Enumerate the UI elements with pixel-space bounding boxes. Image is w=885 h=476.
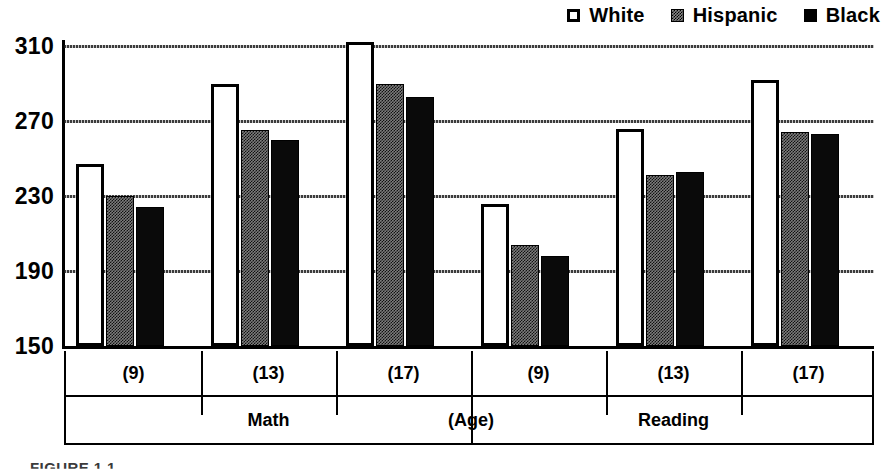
legend-label-hispanic: Hispanic [693,5,778,25]
category-label: (13) [606,351,741,395]
bar-white [751,80,779,346]
legend-label-white: White [589,5,644,25]
category-axis: (9)(13)(17)(9)(13)(17) [64,351,874,397]
section-label: Reading [606,397,741,443]
bar-black [676,172,704,346]
chart-page: White Hispanic Black 310 270 230 190 150… [0,0,885,476]
bar-group [334,46,469,346]
bar-group [604,46,739,346]
bar-hispanic [781,132,809,346]
y-tick-label: 190 [15,258,54,285]
plot-area [64,46,874,349]
bar-black [136,207,164,346]
category-label: (9) [66,351,201,395]
bar-hispanic [646,175,674,346]
section-label: Math [201,397,336,443]
category-divider [606,351,608,395]
section-divider [471,397,473,443]
bar-white [616,129,644,347]
bar-hispanic [511,245,539,346]
section-divider [606,397,608,415]
category-label: (17) [741,351,876,395]
y-tick-label: 230 [15,183,54,210]
bar-white [481,204,509,347]
bar-black [811,134,839,346]
bar-black [541,256,569,346]
category-divider [201,351,203,395]
category-label: (17) [336,351,471,395]
section-divider [741,397,743,415]
bar-group [469,46,604,346]
bar-white [211,84,239,347]
bar-groups [64,46,874,346]
category-divider [471,351,473,395]
legend-item-black: Black [804,5,880,25]
bar-hispanic [106,196,134,346]
section-divider [336,397,338,415]
square-filled-icon [804,9,817,22]
y-tick-label: 150 [15,333,54,360]
square-hatched-icon [671,9,684,22]
figure-caption: FIGURE 1.1 [30,459,116,476]
category-label: (13) [201,351,336,395]
bar-hispanic [376,84,404,347]
bar-white [346,42,374,346]
bar-black [271,140,299,346]
legend-label-black: Black [826,5,880,25]
bar-hispanic [241,130,269,346]
section-axis: Math(Age)Reading [64,397,874,445]
category-label: (9) [471,351,606,395]
y-tick-label: 310 [15,33,54,60]
section-divider [201,397,203,415]
legend-item-white: White [567,5,644,25]
chart-legend: White Hispanic Black [455,2,880,28]
bar-black [406,97,434,346]
y-axis-labels: 310 270 230 190 150 [0,46,60,356]
bar-group [199,46,334,346]
category-divider [336,351,338,395]
y-tick-label: 270 [15,108,54,135]
bar-white [76,164,104,346]
bar-group [739,46,874,346]
legend-item-hispanic: Hispanic [671,5,778,25]
bar-group [64,46,199,346]
square-outline-icon [567,9,580,22]
category-divider [741,351,743,395]
x-axis-line [64,346,874,349]
